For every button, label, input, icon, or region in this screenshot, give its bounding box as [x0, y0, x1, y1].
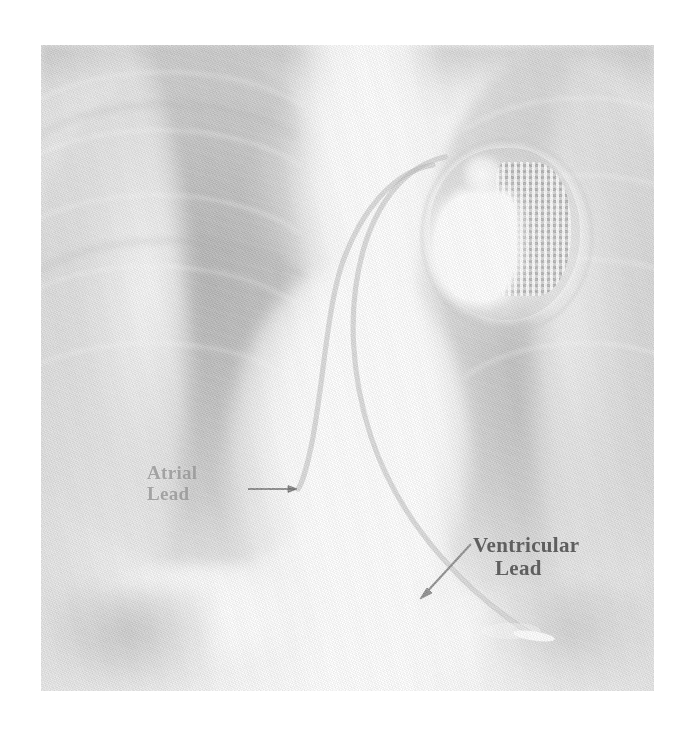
- ventricular-lead-label-line1: Ventricular: [473, 533, 579, 557]
- atrial-lead-label: Atrial Lead: [147, 462, 197, 505]
- scan-page: Atrial Lead Ventricular Lead: [0, 0, 687, 743]
- ventricular-lead-label-line2: Lead: [473, 557, 579, 581]
- ventricular-lead-label: Ventricular Lead: [473, 510, 579, 604]
